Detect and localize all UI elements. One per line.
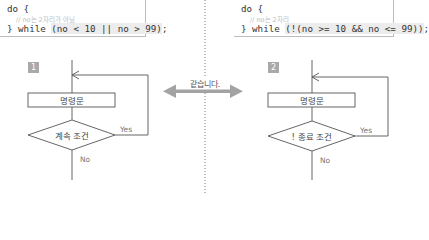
condition-label: 계속 조건 xyxy=(55,129,90,141)
equivalence-label: 같습니다. xyxy=(189,78,222,89)
condition-label: ! 종료 조건 xyxy=(292,130,333,142)
no-label: No xyxy=(80,155,90,164)
yes-label: Yes xyxy=(120,125,132,134)
yes-label: Yes xyxy=(360,126,372,135)
step-badge-2: 2 xyxy=(268,62,279,73)
statement-label: 명령문 xyxy=(60,94,84,106)
no-label: No xyxy=(320,156,330,165)
statement-label: 명령문 xyxy=(300,94,324,106)
step-badge-1: 1 xyxy=(28,62,39,73)
